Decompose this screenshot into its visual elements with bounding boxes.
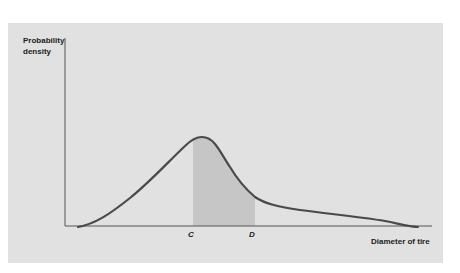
density-chart bbox=[0, 0, 460, 273]
shaded-region-c-d bbox=[193, 137, 255, 226]
y-axis-label: Probability density bbox=[23, 35, 64, 57]
x-axis-label: Diameter of tire bbox=[371, 237, 430, 246]
y-axis-label-line1: Probability bbox=[23, 35, 64, 46]
marker-c-label: C bbox=[188, 230, 194, 239]
y-axis-label-line2: density bbox=[23, 46, 64, 57]
marker-d-label: D bbox=[249, 230, 255, 239]
